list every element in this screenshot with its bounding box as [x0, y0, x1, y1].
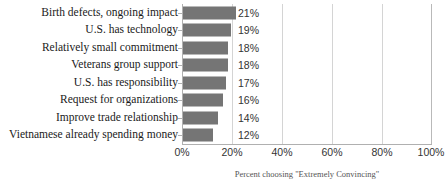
x-tick-label: 40% [271, 147, 292, 158]
bar-row: U.S. has responsibility 17% [0, 74, 446, 92]
axis-caption: Percent choosing "Extremely Convincing" [182, 170, 432, 179]
x-axis-ticks: 0% 20% 40% 60% 80% 100% [182, 147, 432, 161]
bar [183, 59, 228, 72]
bar-value-label: 18% [238, 60, 259, 71]
bar-row: Veterans group support 18% [0, 57, 446, 75]
bar [183, 41, 228, 54]
bar-value-label: 19% [238, 25, 259, 36]
category-label: Relatively small commitment [42, 42, 178, 54]
bar-row: Improve trade relationship 14% [0, 109, 446, 127]
category-label: Improve trade relationship [56, 112, 178, 124]
bar [183, 24, 231, 37]
bar [183, 6, 236, 19]
bar-value-label: 18% [238, 43, 259, 54]
bar [183, 129, 213, 142]
bar-value-label: 16% [238, 95, 259, 106]
bar-value-label: 21% [238, 8, 259, 19]
category-tick [178, 100, 182, 101]
bar-chart: Birth defects, ongoing impact 21% U.S. h… [0, 0, 446, 179]
category-label: U.S. has responsibility [74, 77, 178, 89]
category-label: U.S. has technology [85, 25, 178, 37]
category-tick [178, 48, 182, 49]
bar [183, 76, 226, 89]
bar-row: Birth defects, ongoing impact 21% [0, 4, 446, 22]
bar-value-label: 14% [238, 113, 259, 124]
x-tick-label: 60% [321, 147, 342, 158]
category-label: Birth defects, ongoing impact [41, 7, 178, 19]
x-tick-label: 100% [418, 147, 445, 158]
category-tick [178, 118, 182, 119]
bar-row: Relatively small commitment 18% [0, 39, 446, 57]
category-tick [178, 83, 182, 84]
x-axis-line [182, 144, 432, 145]
x-tick-label: 0% [174, 147, 189, 158]
category-label: Vietnamese already spending money [9, 130, 178, 142]
category-tick [178, 65, 182, 66]
x-tick-label: 80% [371, 147, 392, 158]
bar-value-label: 17% [238, 78, 259, 89]
category-label: Veterans group support [71, 60, 178, 72]
bar-value-label: 12% [238, 130, 259, 141]
category-label: Request for organizations [60, 95, 178, 107]
bar-rows: Birth defects, ongoing impact 21% U.S. h… [0, 4, 446, 144]
category-tick [178, 30, 182, 31]
bar [183, 111, 218, 124]
category-tick [178, 135, 182, 136]
bar-row: U.S. has technology 19% [0, 22, 446, 40]
bar-row: Request for organizations 16% [0, 92, 446, 110]
x-tick-label: 20% [221, 147, 242, 158]
bar-row: Vietnamese already spending money 12% [0, 127, 446, 145]
bar [183, 94, 223, 107]
category-tick [178, 13, 182, 14]
